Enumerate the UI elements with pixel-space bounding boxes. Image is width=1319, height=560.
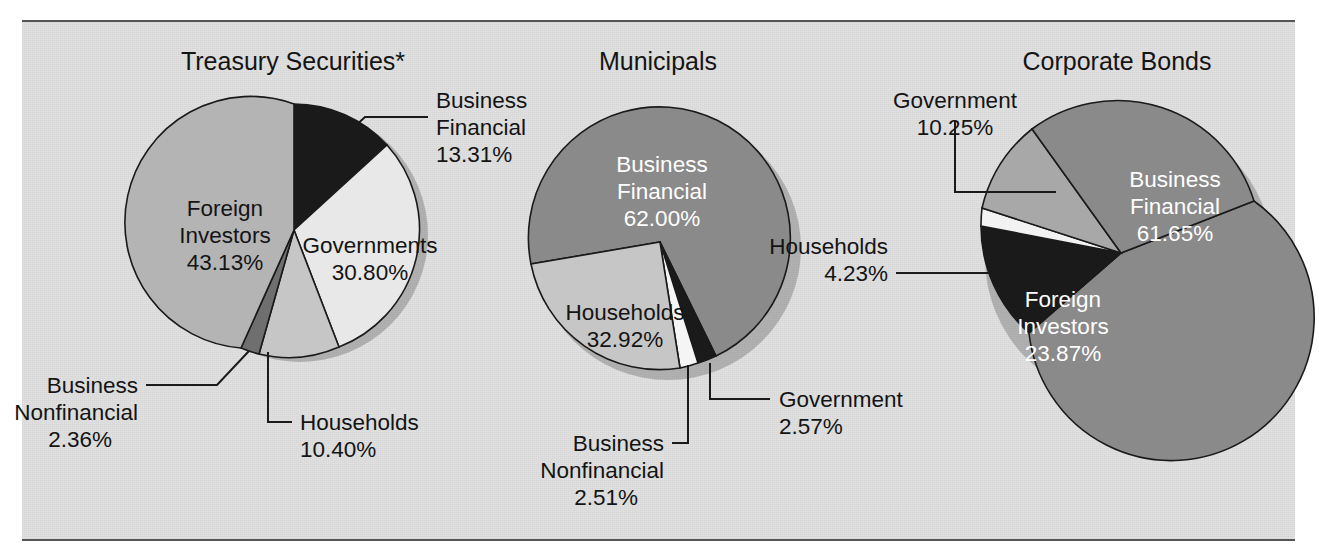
label-business-nonfinancial-1-value: 2.36% (48, 427, 112, 452)
label-foreign-investors-1-line1: Foreign (187, 196, 263, 221)
label-business-financial-3-value: 61.65% (1137, 221, 1213, 246)
label-business-financial-1-value: 13.31% (436, 142, 512, 167)
chart-title-municipals: Municipals (599, 47, 717, 75)
callout-business-financial-1: Business Financial 13.31% (436, 88, 527, 167)
label-business-financial-2-line1: Business (616, 152, 707, 177)
label-business-financial-3-line2: Financial (1130, 194, 1220, 219)
label-business-financial-2-value: 62.00% (624, 206, 700, 231)
label-foreign-investors-3-value: 23.87% (1025, 341, 1101, 366)
label-foreign-investors-3-line2: Investors (1017, 314, 1108, 339)
label-business-financial-1-line2: Financial (436, 115, 526, 140)
label-government-3-line1: Government (893, 88, 1018, 113)
label-business-financial-3-line1: Business (1129, 167, 1220, 192)
label-households-3-value: 4.23% (824, 261, 888, 286)
pie-3-slices (981, 101, 1314, 461)
pie-1-slices (125, 96, 420, 357)
label-business-financial-1-line1: Business (436, 88, 527, 113)
pie-charts-figure: Treasury Securities* Foreign Investors 4… (0, 0, 1319, 560)
leader-business-nonfinancial-1 (146, 351, 249, 385)
label-government-2-value: 2.57% (779, 414, 843, 439)
leader-households-1 (268, 352, 292, 422)
label-government-2-line1: Government (779, 387, 904, 412)
label-business-financial-2-line2: Financial (617, 179, 707, 204)
label-foreign-investors-1-line2: Investors (179, 223, 270, 248)
chart-title-treasury: Treasury Securities* (181, 47, 405, 75)
label-governments-1-line1: Governments (302, 233, 437, 258)
label-business-nonfinancial-2-line1: Business (573, 431, 664, 456)
label-business-nonfinancial-1-line2: Nonfinancial (14, 400, 138, 425)
callout-business-nonfinancial-1: Business Nonfinancial 2.36% (14, 373, 138, 452)
callout-government-2: Government 2.57% (779, 387, 904, 439)
callout-government-3: Government 10.25% (893, 88, 1018, 140)
label-households-2-value: 32.92% (587, 327, 663, 352)
callout-households-1: Households 10.40% (300, 410, 419, 462)
label-business-nonfinancial-2-line2: Nonfinancial (540, 458, 664, 483)
chart-title-corporate-bonds: Corporate Bonds (1022, 47, 1211, 75)
label-business-nonfinancial-2-value: 2.51% (574, 485, 638, 510)
label-households-1-line1: Households (300, 410, 419, 435)
chart-treasury-securities: Treasury Securities* Foreign Investors 4… (14, 47, 527, 462)
label-foreign-investors-1-value: 43.13% (187, 250, 263, 275)
label-households-1-value: 10.40% (300, 437, 376, 462)
callout-business-nonfinancial-2: Business Nonfinancial 2.51% (540, 431, 664, 510)
label-business-nonfinancial-1-line1: Business (47, 373, 138, 398)
label-government-3-value: 10.25% (917, 115, 993, 140)
label-households-2-line1: Households (566, 300, 685, 325)
label-households-3-line1: Households (769, 234, 888, 259)
label-governments-1-value: 30.80% (332, 260, 408, 285)
label-foreign-investors-3-line1: Foreign (1025, 287, 1101, 312)
figure-root: Treasury Securities* Foreign Investors 4… (0, 0, 1319, 560)
